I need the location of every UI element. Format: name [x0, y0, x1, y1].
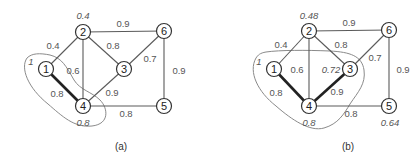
svg-text:3: 3 [347, 63, 353, 75]
node-value-5: 0.64 [381, 117, 400, 128]
weight-label-2-3: 0.8 [106, 40, 119, 51]
svg-text:6: 6 [386, 24, 392, 36]
weight-label-2-6: 0.9 [342, 17, 355, 28]
weight-label-2-4: 0.6 [66, 65, 79, 76]
weight-label-3-4: 0.9 [105, 87, 118, 98]
weight-label-3-6: 0.7 [143, 53, 156, 64]
graph-diagram: 0.4 0.8 0.6 0.8 0.9 0.9 0.7 0.8 0.9 1 0.… [0, 0, 419, 162]
node-value-4: 0.8 [76, 117, 90, 128]
node-4: 4 [76, 99, 91, 114]
node-value-4: 0.8 [302, 117, 316, 128]
node-1: 1 [39, 62, 54, 77]
panel-a: 0.4 0.8 0.6 0.8 0.9 0.9 0.7 0.8 0.9 1 0.… [25, 10, 186, 152]
node-4: 4 [302, 99, 317, 114]
node-5: 5 [382, 99, 397, 114]
weight-label-3-6: 0.7 [368, 52, 381, 63]
svg-text:4: 4 [306, 100, 312, 112]
edge-2-6 [309, 30, 389, 31]
weight-label-4-5: 0.8 [344, 108, 357, 119]
edge-2-3 [83, 32, 124, 69]
node-value-3: 0.72 [322, 64, 341, 75]
node-value-1: 1 [256, 56, 261, 67]
weight-label-3-4: 0.9 [330, 86, 343, 97]
node-value-2: 0.4 [76, 10, 89, 21]
caption-b: (b) [342, 141, 354, 152]
node-6: 6 [382, 23, 397, 38]
weight-label-2-6: 0.9 [116, 18, 129, 29]
weight-label-1-2: 0.4 [46, 40, 59, 51]
svg-text:5: 5 [386, 100, 392, 112]
weight-label-5-6: 0.9 [172, 65, 185, 76]
edge-3-6 [350, 30, 389, 69]
svg-text:2: 2 [80, 26, 86, 38]
svg-text:2: 2 [306, 25, 312, 37]
weight-label-5-6: 0.9 [396, 64, 409, 75]
node-1: 1 [267, 62, 282, 77]
edge-2-6 [83, 31, 164, 32]
weight-label-2-4: 0.6 [290, 64, 303, 75]
node-value-2: 0.48 [300, 10, 319, 21]
node-2: 2 [76, 25, 91, 40]
node-value-1: 1 [28, 56, 33, 67]
weight-label-4-5: 0.8 [119, 108, 132, 119]
weight-label-1-2: 0.4 [274, 39, 287, 50]
node-6: 6 [157, 24, 172, 39]
svg-text:4: 4 [80, 100, 86, 112]
weight-label-1-4: 0.8 [269, 87, 282, 98]
svg-text:5: 5 [161, 100, 167, 112]
svg-text:1: 1 [271, 63, 277, 75]
caption-a: (a) [115, 141, 127, 152]
node-3: 3 [343, 62, 358, 77]
node-5: 5 [157, 99, 172, 114]
weight-label-2-3: 0.8 [334, 39, 347, 50]
weight-label-1-4: 0.8 [50, 88, 63, 99]
svg-text:6: 6 [161, 25, 167, 37]
svg-text:3: 3 [121, 63, 127, 75]
node-3: 3 [117, 62, 132, 77]
node-2: 2 [302, 24, 317, 39]
svg-text:1: 1 [43, 63, 49, 75]
panel-b: 0.4 0.8 0.6 0.8 0.9 0.9 0.7 0.8 0.9 1 0.… [253, 10, 409, 152]
